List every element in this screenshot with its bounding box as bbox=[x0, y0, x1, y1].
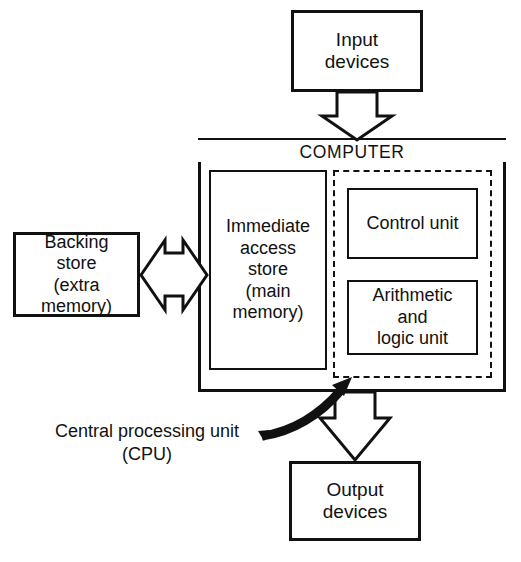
computer-label: COMPUTER bbox=[198, 140, 506, 162]
output-devices-label: Output devices bbox=[323, 479, 387, 524]
immediate-access-store-label: Immediate access store (main memory) bbox=[226, 216, 310, 324]
block-arrow-down-input-icon bbox=[322, 92, 392, 140]
backing-store-box: Backing store (extra memory) bbox=[13, 232, 140, 317]
input-devices-label: Input devices bbox=[325, 29, 389, 74]
control-unit-box: Control unit bbox=[347, 188, 478, 259]
diagram-canvas: Input devices COMPUTER Immediate access … bbox=[0, 0, 521, 562]
block-arrow-down-output-icon bbox=[320, 392, 390, 460]
control-unit-label: Control unit bbox=[366, 213, 458, 235]
input-devices-box: Input devices bbox=[291, 10, 423, 92]
output-devices-box: Output devices bbox=[289, 461, 421, 541]
immediate-access-store-box: Immediate access store (main memory) bbox=[209, 170, 327, 370]
backing-store-label: Backing store (extra memory) bbox=[41, 232, 112, 317]
arithmetic-logic-unit-box: Arithmetic and logic unit bbox=[347, 280, 478, 355]
cpu-caption-label: Central processing unit (CPU) bbox=[8, 420, 286, 467]
arithmetic-logic-unit-label: Arithmetic and logic unit bbox=[372, 285, 452, 350]
